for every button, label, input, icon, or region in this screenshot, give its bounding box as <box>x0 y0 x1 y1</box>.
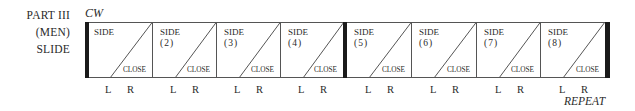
step-box-3: SIDE (3) CLOSE <box>217 22 280 78</box>
side-label: SIDE <box>484 27 504 38</box>
left-foot-label: L <box>105 84 111 95</box>
side-label: SIDE <box>160 27 180 38</box>
close-label: CLOSE <box>447 66 470 74</box>
left-foot-label: L <box>495 84 501 95</box>
step-number: (2) <box>160 38 174 49</box>
left-foot-label: L <box>365 84 371 95</box>
repeat-label: REPEAT <box>564 95 605 107</box>
left-foot-label: L <box>234 84 240 95</box>
step-box-1: SIDE CLOSE <box>89 22 152 78</box>
step-box-2: SIDE (2) CLOSE <box>153 22 216 78</box>
step-number: (3) <box>224 38 238 49</box>
step-box-8: SIDE (8) CLOSE <box>541 22 605 78</box>
close-label: CLOSE <box>251 66 274 74</box>
right-foot-label: R <box>581 84 588 95</box>
side-label: SIDE <box>94 27 114 38</box>
step-box-6: SIDE (6) CLOSE <box>412 22 476 78</box>
close-label: CLOSE <box>123 66 146 74</box>
side-label: SIDE <box>548 27 568 38</box>
close-label: CLOSE <box>187 66 210 74</box>
step-number: (6) <box>419 38 433 49</box>
right-foot-label: R <box>452 84 459 95</box>
right-foot-label: R <box>192 84 199 95</box>
right-foot-label: R <box>320 84 327 95</box>
right-foot-label: R <box>387 84 394 95</box>
left-foot-label: L <box>430 84 436 95</box>
side-label: SIDE <box>354 27 374 38</box>
right-foot-label: R <box>517 84 524 95</box>
step-number: (7) <box>484 38 498 49</box>
side-label: SIDE <box>288 27 308 38</box>
step-number: (5) <box>354 38 368 49</box>
measure-bar-end <box>605 22 610 78</box>
close-label: CLOSE <box>382 66 405 74</box>
left-foot-label: L <box>298 84 304 95</box>
side-label: SIDE <box>224 27 244 38</box>
close-label: CLOSE <box>576 66 599 74</box>
left-foot-label: L <box>559 84 565 95</box>
close-label: CLOSE <box>314 66 337 74</box>
side-label: SIDE <box>419 27 439 38</box>
step-number: (8) <box>548 38 562 49</box>
step-box-5: SIDE (5) CLOSE <box>347 22 411 78</box>
right-foot-label: R <box>127 84 134 95</box>
left-foot-label: L <box>170 84 176 95</box>
step-box-4: SIDE (4) CLOSE <box>281 22 343 78</box>
right-foot-label: R <box>256 84 263 95</box>
step-box-7: SIDE (7) CLOSE <box>477 22 540 78</box>
close-label: CLOSE <box>511 66 534 74</box>
step-number: (4) <box>288 38 302 49</box>
